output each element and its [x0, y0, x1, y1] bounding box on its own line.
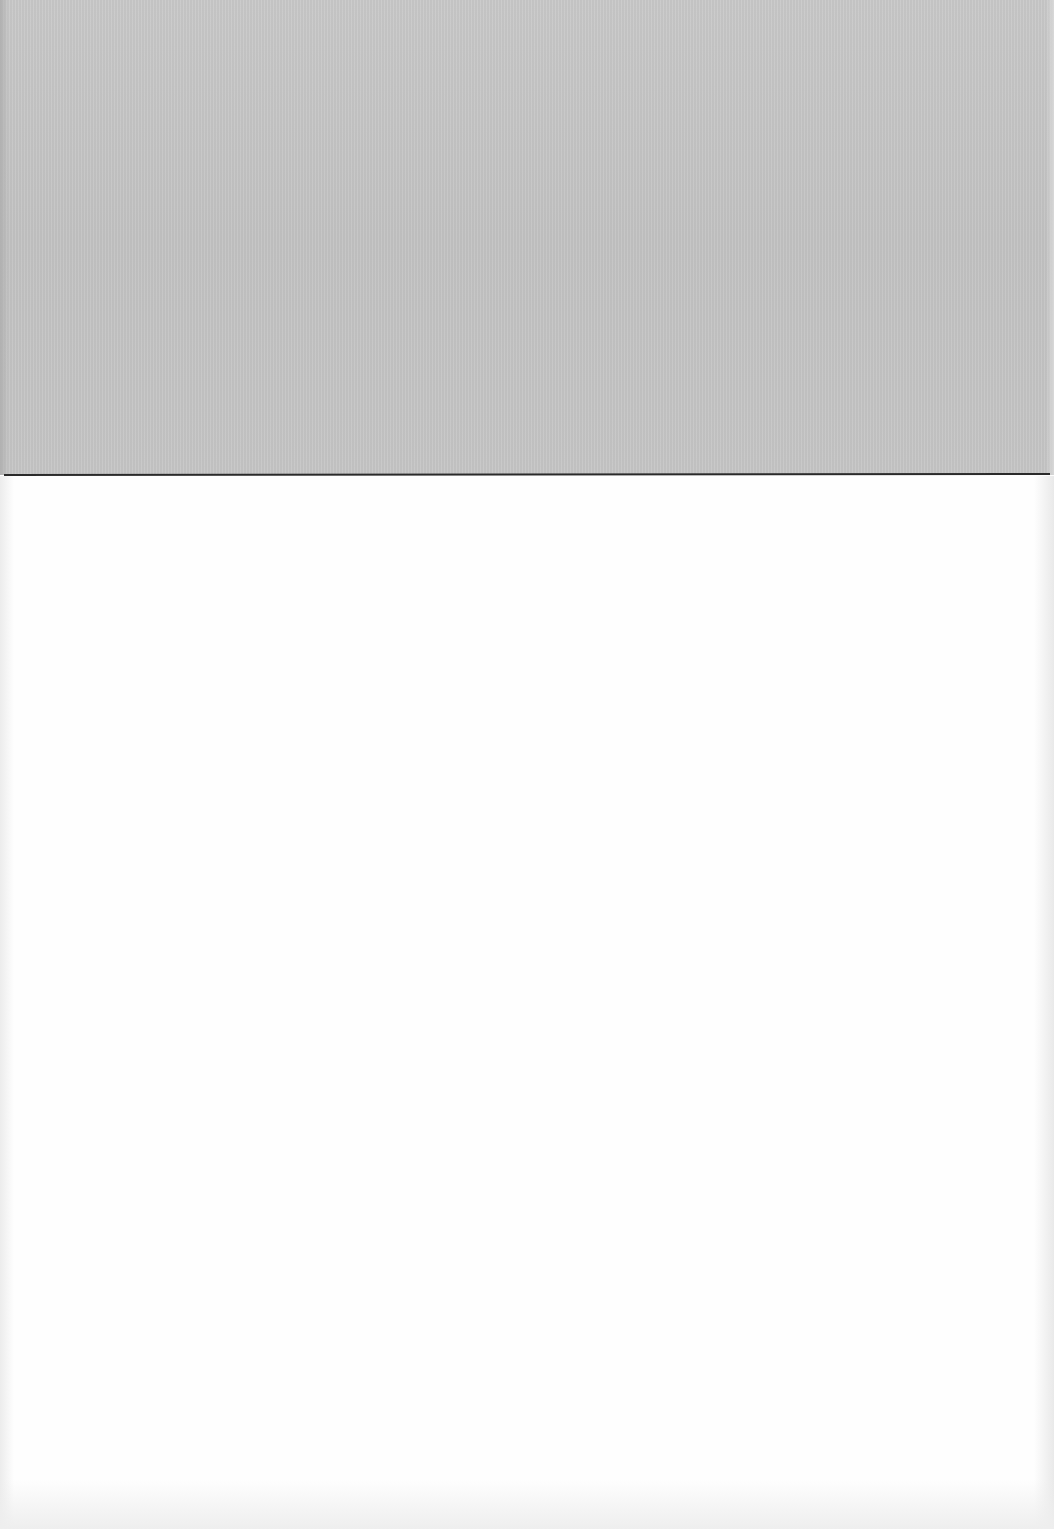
- paper-bottom-edge: [0, 1479, 1054, 1529]
- scanned-page: Blank scanned sheet: [0, 0, 1054, 1529]
- left-scan-shadow: [0, 0, 8, 475]
- top-gray-band: [0, 0, 1054, 475]
- right-scan-shadow: [1046, 0, 1054, 475]
- blank-paper-area: [0, 476, 1054, 1529]
- paper-left-edge: [0, 476, 14, 1529]
- paper-right-edge: [1034, 476, 1054, 1529]
